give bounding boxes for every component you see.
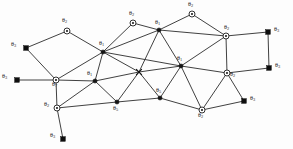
graph-edge (181, 36, 226, 66)
node-label: θ2 (188, 1, 193, 7)
graph-edge (57, 108, 63, 139)
graph-edge (181, 66, 227, 73)
filled-square-icon (242, 99, 247, 104)
circle-center-dot-icon (66, 30, 68, 32)
node-label: θ2 (129, 10, 134, 16)
graph-edge (57, 102, 117, 108)
filled-circle-icon (101, 50, 105, 54)
graph-edge (95, 72, 139, 81)
graph-edge (103, 30, 159, 52)
graph-diagram (0, 0, 293, 149)
node-label: θ1 (177, 55, 182, 61)
graph-node-dot[interactable] (101, 50, 105, 54)
filled-square-icon (266, 30, 271, 35)
node-label: θ1 (87, 70, 92, 76)
filled-square-icon (61, 137, 66, 142)
graph-node-square[interactable] (61, 137, 66, 142)
graph-edge (139, 66, 181, 72)
circle-center-dot-icon (201, 109, 203, 111)
filled-circle-icon (93, 79, 97, 83)
node-label: θ2 (62, 17, 67, 23)
filled-square-icon (15, 78, 20, 83)
graph-edge (181, 66, 202, 110)
graph-node-circle[interactable] (130, 20, 136, 26)
graph-node-square[interactable] (266, 30, 271, 35)
graph-edge (139, 72, 160, 98)
graph-edge (202, 73, 227, 110)
graph-edge (192, 14, 226, 36)
circle-center-dot-icon (226, 72, 228, 74)
node-label: θ2 (198, 112, 203, 118)
figure-canvas: θ2θ3θ3θ7θ2θ3θ1θ2θ1θ2θ2θ3θ3θ2θ1θ1θ5θ5θ2θ3 (0, 0, 293, 149)
node-label: θ2 (44, 101, 49, 107)
node-label: θ3 (50, 132, 55, 138)
graph-edge (159, 14, 192, 30)
filled-circle-icon (179, 64, 183, 68)
graph-node-dot[interactable] (93, 79, 97, 83)
node-label: θ1 (99, 40, 104, 46)
graph-node-dot[interactable] (157, 28, 161, 32)
node-label: θ5 (156, 87, 161, 93)
graph-edge (95, 81, 117, 102)
graph-node-square[interactable] (15, 78, 20, 83)
graph-edge (117, 72, 139, 102)
filled-circle-icon (157, 28, 161, 32)
graph-node-dot[interactable] (179, 64, 183, 68)
graph-node-dot[interactable] (158, 96, 162, 100)
node-label: θ2 (230, 71, 235, 77)
filled-square-icon (267, 66, 272, 71)
graph-edge (226, 32, 268, 36)
graph-node-circle[interactable] (54, 105, 60, 111)
node-label: θ3 (275, 62, 280, 68)
graph-edge (67, 31, 103, 52)
graph-edge (202, 101, 244, 110)
graph-edge (226, 36, 227, 73)
graph-edge (57, 81, 95, 108)
node-label: θ3 (2, 73, 7, 79)
graph-edge (26, 48, 56, 80)
graph-node-square[interactable] (24, 46, 29, 51)
graph-edge (160, 98, 202, 110)
graph-node-square[interactable] (267, 66, 272, 71)
graph-node-square[interactable] (242, 99, 247, 104)
filled-circle-icon (158, 96, 162, 100)
node-label: θ7 (52, 81, 57, 87)
graph-edge (103, 23, 133, 52)
circle-center-dot-icon (56, 107, 58, 109)
node-label: θ2 (224, 24, 229, 30)
graph-edge (160, 66, 181, 98)
node-label: θ3 (250, 95, 255, 101)
graph-edge (26, 31, 67, 48)
node-label: θ5 (113, 105, 118, 111)
graph-edge (56, 52, 103, 80)
graph-edge (268, 32, 269, 68)
node-label: θ1 (155, 19, 160, 25)
graph-node-circle[interactable] (189, 11, 195, 17)
node-label: θ3 (11, 41, 16, 47)
node-label: θ3 (274, 26, 279, 32)
graph-node-circle[interactable] (223, 33, 229, 39)
circle-center-dot-icon (132, 22, 134, 24)
graph-edge (56, 80, 95, 81)
graph-edge (117, 98, 160, 102)
circle-center-dot-icon (225, 35, 227, 37)
graph-edge (159, 30, 226, 36)
circle-center-dot-icon (191, 13, 193, 15)
graph-node-circle[interactable] (64, 28, 70, 34)
filled-square-icon (24, 46, 29, 51)
